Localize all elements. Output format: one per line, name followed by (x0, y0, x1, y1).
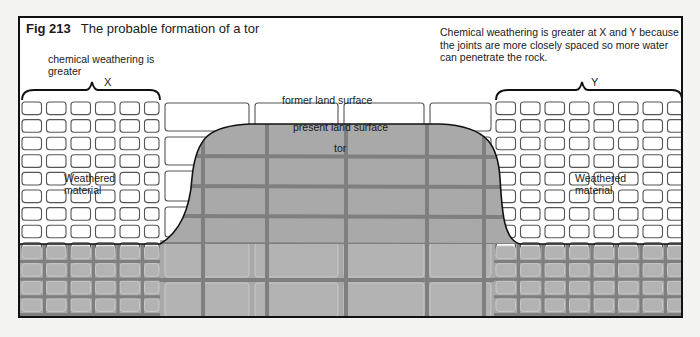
weathered-block (619, 120, 639, 133)
weathered-block (545, 120, 565, 133)
weathered-block (570, 208, 590, 221)
weathered-block (545, 172, 565, 185)
bedrock-large-block (430, 243, 491, 277)
weathered-block (22, 102, 42, 115)
present-land-surface-label: present land surface (293, 121, 388, 133)
bedrock-block (120, 299, 140, 312)
weathered-block (643, 120, 663, 133)
weathered-block (521, 102, 541, 115)
x-label: X (104, 76, 111, 88)
bedrock-block (496, 264, 516, 277)
bedrock-block (619, 246, 639, 259)
weathered-block (594, 137, 614, 150)
weathered-block (619, 155, 639, 168)
brace-x (22, 82, 160, 100)
weathered-block (71, 137, 91, 150)
bedrock-block (619, 316, 639, 318)
bedrock-block (619, 299, 639, 312)
bedrock-block (96, 281, 116, 294)
bedrock-block (570, 299, 590, 312)
weathered-block (521, 208, 541, 221)
weathered-block (96, 102, 116, 115)
bedrock-block (668, 264, 684, 277)
weathered-block (521, 137, 541, 150)
bedrock-block (594, 264, 614, 277)
weathered-block (643, 155, 663, 168)
weathered-block (96, 208, 116, 221)
figure-number: Fig 213 (26, 21, 71, 36)
weathered-block (643, 190, 663, 203)
bedrock-block (521, 246, 541, 259)
bedrock-block (668, 316, 684, 318)
bedrock-large-block (344, 283, 424, 317)
weathered-block (47, 225, 67, 238)
weathered-block (22, 155, 42, 168)
bedrock-block (22, 316, 42, 318)
tor-formation-diagram: Fig 213The probable formation of a tor C… (18, 16, 683, 318)
weathered-block (521, 155, 541, 168)
weathered-block (545, 225, 565, 238)
weathered-block (521, 225, 541, 238)
weathered-block (496, 102, 516, 115)
bedrock-block (71, 264, 91, 277)
weathered-block (521, 190, 541, 203)
bedrock-block (145, 299, 160, 312)
weathered-block (47, 137, 67, 150)
weathered-block (96, 137, 116, 150)
weathered-block (594, 225, 614, 238)
weathered-block (47, 208, 67, 221)
weathered-block (619, 208, 639, 221)
weathered-block (120, 208, 140, 221)
bedrock-block (570, 281, 590, 294)
bedrock-block (47, 264, 67, 277)
weathered-block (22, 137, 42, 150)
weathered-block (120, 120, 140, 133)
weathered-block (96, 225, 116, 238)
weathered-block (521, 172, 541, 185)
weathered-block (71, 120, 91, 133)
weathered-block (145, 102, 160, 115)
weathered-block (643, 172, 663, 185)
weathered-block (570, 225, 590, 238)
bedrock-block (570, 264, 590, 277)
bedrock-block (594, 246, 614, 259)
weathered-block (71, 155, 91, 168)
bedrock-block (545, 246, 565, 259)
bedrock-large-block (344, 243, 424, 277)
weathered-block (145, 120, 160, 133)
tor-joint-horizontal (160, 186, 520, 187)
weathered-block (594, 102, 614, 115)
explanation-note: Chemical weathering is greater at X and … (440, 26, 680, 64)
bedrock-block (643, 299, 663, 312)
weathered-block (96, 155, 116, 168)
bedrock-block (22, 264, 42, 277)
weathered-block (120, 102, 140, 115)
weathered-block (545, 190, 565, 203)
bedrock-block (545, 299, 565, 312)
weathered-block (47, 102, 67, 115)
weathered-block (545, 208, 565, 221)
weathered-block (545, 102, 565, 115)
weathered-block (570, 137, 590, 150)
weathered-block (145, 208, 160, 221)
bedrock-large-block (165, 243, 249, 277)
weathered-block (643, 208, 663, 221)
bedrock-block (96, 299, 116, 312)
weathered-block (22, 225, 42, 238)
bedrock-block (47, 246, 67, 259)
bedrock-block (570, 316, 590, 318)
y-label: Y (591, 76, 598, 88)
bedrock-block (120, 281, 140, 294)
bedrock-block (594, 281, 614, 294)
weathered-block (545, 137, 565, 150)
bedrock-block (521, 316, 541, 318)
weathered-block (120, 155, 140, 168)
weathered-block (145, 190, 160, 203)
weathered-block (570, 155, 590, 168)
weathered-block (120, 137, 140, 150)
bedrock-block (619, 264, 639, 277)
bedrock-block (22, 246, 42, 259)
bedrock-block (521, 281, 541, 294)
bedrock-large-block (430, 283, 491, 317)
bedrock-block (668, 281, 684, 294)
